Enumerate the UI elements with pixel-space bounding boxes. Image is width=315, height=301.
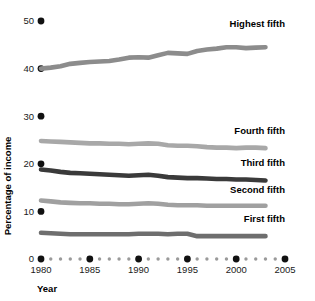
y-tick-marker-dot [38, 256, 45, 263]
series-label-third-fifth: Third fifth [241, 157, 286, 168]
x-axis-minor-dot [127, 257, 130, 260]
income-share-line-chart: 01020304050 198019851990199520002005 Hig… [0, 0, 315, 301]
series-label-second-fifth: Second fifth [230, 184, 285, 195]
y-tick-label: 10 [23, 206, 34, 217]
x-tick-label: 1990 [128, 264, 149, 275]
x-axis-major-dot [135, 256, 142, 263]
series-label-highest-fifth: Highest fifth [230, 18, 286, 29]
x-axis-dotted-line [49, 256, 288, 263]
y-tick-label: 20 [23, 158, 34, 169]
series-line-first-fifth [41, 233, 265, 236]
x-tick-label: 1980 [30, 264, 51, 275]
x-axis-minor-dot [108, 257, 111, 260]
y-tick-label: 0 [29, 253, 34, 264]
x-axis-major-dot [184, 256, 191, 263]
y-tick-marker-dot [38, 160, 45, 167]
series-line-third-fifth [41, 170, 265, 181]
x-axis-title: Year [37, 283, 57, 294]
x-axis-minor-dot [78, 257, 81, 260]
x-axis-minor-dot [205, 257, 208, 260]
series-line-fourth-fifth [41, 141, 265, 148]
x-axis-minor-dot [195, 257, 198, 260]
y-tick-marker-dot [38, 113, 45, 120]
x-axis-major-dot [282, 256, 289, 263]
x-axis-minor-dot [225, 257, 228, 260]
x-tick-label: 1985 [79, 264, 100, 275]
y-tick-marker-dot [38, 208, 45, 215]
x-tick-label: 2005 [274, 264, 295, 275]
series-line-highest-fifth [41, 47, 265, 68]
x-axis-minor-dot [274, 257, 277, 260]
x-axis-minor-dot [49, 257, 52, 260]
y-axis-title: Percentage of income [2, 137, 13, 236]
x-axis-major-dot [233, 256, 240, 263]
x-axis-minor-dot [147, 257, 150, 260]
x-axis-minor-dot [264, 257, 267, 260]
x-axis-minor-dot [244, 257, 247, 260]
series-lines [41, 47, 265, 236]
x-axis-minor-dot [98, 257, 101, 260]
x-axis-major-dot [86, 256, 93, 263]
x-axis-minor-dot [215, 257, 218, 260]
y-tick-label: 40 [23, 63, 34, 74]
x-axis-minor-dot [254, 257, 257, 260]
y-tick-label: 50 [23, 15, 34, 26]
x-tick-label: 1995 [177, 264, 198, 275]
series-label-first-fifth: First fifth [244, 213, 285, 224]
chart-canvas: 01020304050 198019851990199520002005 Hig… [0, 0, 315, 301]
x-axis-minor-dot [117, 257, 120, 260]
x-axis-minor-dot [69, 257, 72, 260]
x-axis-minor-dot [59, 257, 62, 260]
y-axis-tick-labels: 01020304050 [23, 15, 34, 264]
x-axis-minor-dot [156, 257, 159, 260]
x-tick-label: 2000 [226, 264, 247, 275]
y-tick-label: 30 [23, 111, 34, 122]
x-axis-minor-dot [176, 257, 179, 260]
series-label-fourth-fifth: Fourth fifth [234, 125, 285, 136]
x-axis-tick-labels: 198019851990199520002005 [30, 264, 295, 275]
x-axis-minor-dot [166, 257, 169, 260]
series-line-second-fifth [41, 200, 265, 205]
y-tick-marker-dot [38, 18, 45, 25]
